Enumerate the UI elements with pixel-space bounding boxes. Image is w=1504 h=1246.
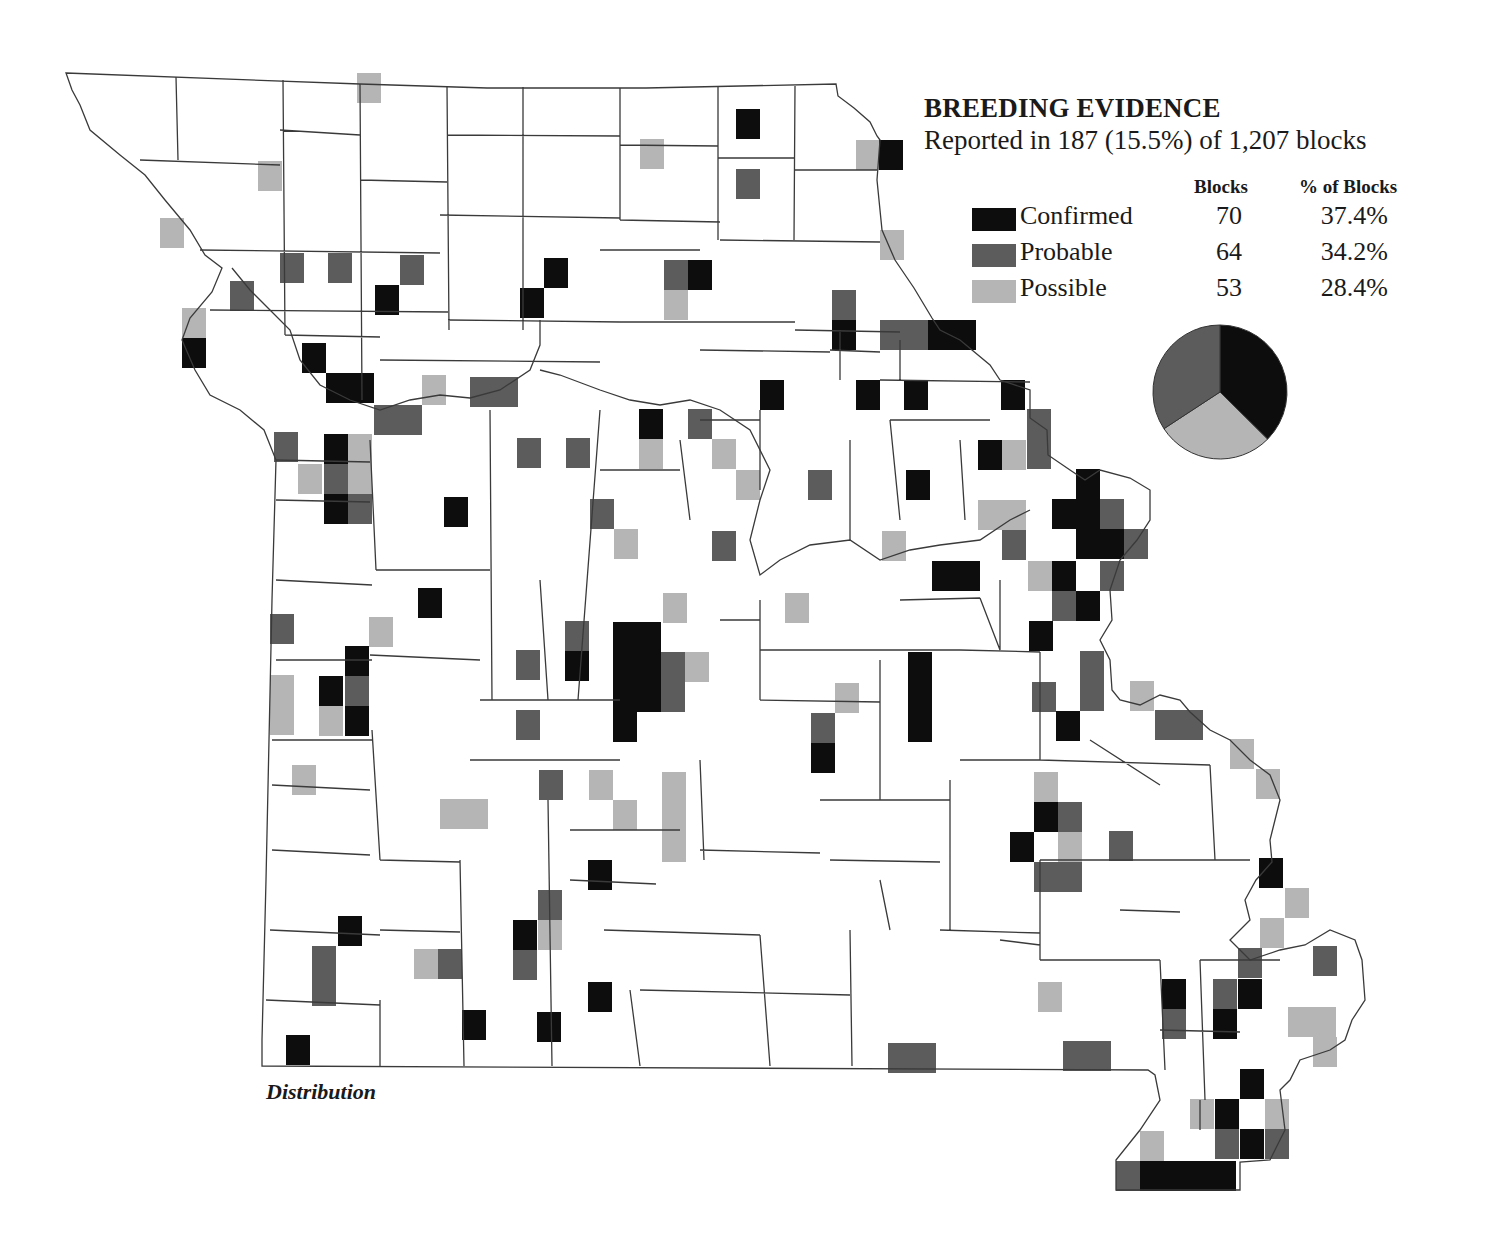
confirmed-block <box>639 409 663 439</box>
legend-header-blocks: Blocks <box>1194 176 1248 198</box>
confirmed-block <box>462 1010 486 1040</box>
legend-label: Confirmed <box>1020 198 1133 234</box>
probable-block <box>590 499 614 529</box>
probable-block <box>1213 979 1237 1009</box>
confirmed-block <box>908 652 932 742</box>
probable-block <box>312 946 336 1006</box>
probable-block <box>1100 561 1124 591</box>
probable-block <box>565 621 589 651</box>
confirmed-block <box>1010 832 1034 862</box>
confirmed-block <box>1162 979 1186 1009</box>
legend-count: 70 <box>1178 198 1242 234</box>
confirmed-block <box>588 982 612 1012</box>
legend-subtitle: Reported in 187 (15.5%) of 1,207 blocks <box>924 124 1444 156</box>
possible-block <box>1034 772 1058 802</box>
confirmed-block <box>613 622 661 712</box>
probable-block <box>438 949 462 979</box>
probable-block <box>1215 1129 1239 1159</box>
confirmed-block <box>302 343 326 373</box>
possible-block <box>422 375 446 405</box>
possible-block <box>685 652 709 682</box>
possible-block <box>640 139 664 169</box>
legend-title: BREEDING EVIDENCE <box>924 92 1444 124</box>
probable-swatch-icon <box>972 244 1016 267</box>
probable-block <box>566 438 590 468</box>
possible-swatch-icon <box>972 280 1016 303</box>
probable-block <box>400 255 424 285</box>
legend-percent: 28.4% <box>1298 270 1388 306</box>
probable-block <box>516 650 540 680</box>
possible-block <box>414 949 438 979</box>
probable-block <box>345 676 369 706</box>
possible-block <box>613 800 637 830</box>
possible-block <box>1038 982 1062 1012</box>
legend-percent: 34.2% <box>1298 234 1388 270</box>
possible-block <box>1190 1099 1214 1129</box>
possible-block <box>663 593 687 623</box>
probable-block <box>688 409 712 439</box>
confirmed-block <box>1240 1129 1264 1159</box>
confirmed-block <box>345 646 369 676</box>
probable-block <box>1265 1129 1289 1159</box>
confirmed-block <box>1052 561 1076 591</box>
legend-row-probable: Probable 64 34.2% <box>968 234 1448 270</box>
confirmed-block <box>326 373 374 403</box>
probable-block <box>1052 591 1076 621</box>
possible-block <box>662 772 686 862</box>
probable-block <box>1155 710 1203 740</box>
legend-row-possible: Possible 53 28.4% <box>968 270 1448 306</box>
probable-block <box>1032 682 1056 712</box>
possible-block <box>348 464 372 494</box>
possible-block <box>319 706 343 736</box>
legend: BREEDING EVIDENCE Reported in 187 (15.5%… <box>924 92 1444 156</box>
probable-block <box>1002 530 1026 560</box>
probable-block <box>1034 862 1082 892</box>
confirmed-block <box>565 651 589 681</box>
breeding-evidence-pie-chart <box>1150 322 1290 462</box>
probable-block <box>324 464 348 494</box>
confirmed-block <box>879 140 903 170</box>
possible-block <box>348 434 372 464</box>
missouri-river <box>232 268 1030 575</box>
possible-block <box>1002 440 1026 470</box>
possible-block <box>369 617 393 647</box>
probable-block <box>1124 529 1148 559</box>
confirmed-block <box>928 320 976 350</box>
possible-block <box>298 464 322 494</box>
probable-block <box>1109 831 1133 861</box>
probable-block <box>832 290 856 320</box>
possible-block <box>835 683 859 713</box>
legend-count: 64 <box>1178 234 1242 270</box>
confirmed-block <box>444 497 468 527</box>
possible-block <box>1028 561 1052 591</box>
probable-block <box>712 531 736 561</box>
possible-block <box>639 439 663 469</box>
legend-percent: 37.4% <box>1298 198 1388 234</box>
probable-block <box>1100 499 1124 529</box>
confirmed-block <box>1076 529 1124 559</box>
confirmed-block <box>588 860 612 890</box>
probable-block <box>736 169 760 199</box>
confirmed-block <box>1238 979 1262 1009</box>
probable-block <box>270 614 294 644</box>
possible-block <box>440 799 488 829</box>
probable-block <box>811 713 835 743</box>
confirmed-block <box>1034 802 1058 832</box>
probable-block <box>328 253 352 283</box>
confirmed-block <box>904 380 928 410</box>
confirmed-block <box>1240 1069 1264 1099</box>
probable-block <box>280 253 304 283</box>
confirmed-block <box>1213 1009 1237 1039</box>
probable-block <box>664 260 688 290</box>
confirmed-block <box>613 712 637 742</box>
possible-block <box>1130 681 1154 711</box>
confirmed-block <box>537 1012 561 1042</box>
confirmed-block <box>856 380 880 410</box>
possible-block <box>1058 832 1082 862</box>
probable-block <box>661 652 685 712</box>
possible-block <box>160 218 184 248</box>
probable-block <box>539 770 563 800</box>
confirmed-block <box>286 1035 310 1065</box>
confirmed-block <box>906 470 930 500</box>
confirmed-block <box>513 920 537 950</box>
